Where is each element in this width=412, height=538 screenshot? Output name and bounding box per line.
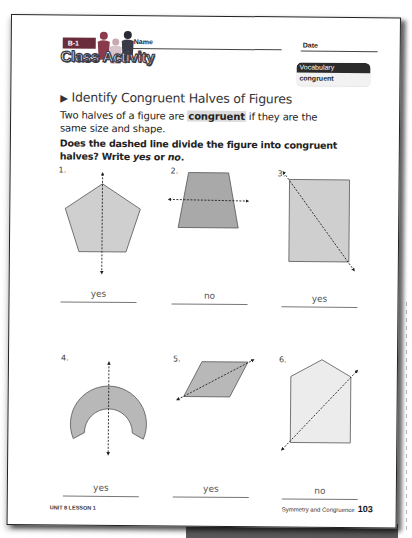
vocabulary-word: congruent (296, 72, 370, 84)
page-number: 103 (358, 504, 373, 514)
rectangle-figure (280, 167, 371, 288)
vocabulary-box: Vocabulary congruent (296, 62, 370, 86)
problem-3-answer[interactable]: yes (281, 293, 357, 304)
lesson-title-text: Identify Congruent Halves of Figures (71, 90, 292, 107)
vocab-highlight: congruent (187, 111, 246, 123)
parallelogram-figure (178, 356, 269, 417)
footer-chapter-title: Symmetry and Congruence (282, 506, 355, 513)
pentagon-figure (55, 165, 146, 286)
question-text: Does the dashed line divide the figure i… (60, 137, 337, 162)
problem-6-answer-line (282, 498, 358, 500)
class-activity-logo: Class Activity (61, 47, 155, 65)
problem-6-answer[interactable]: no (282, 485, 358, 496)
problem-1-answer-line (60, 301, 136, 303)
option-yes: yes (133, 151, 151, 162)
problem-2-answer-line (171, 303, 247, 305)
footer-chapter: Symmetry and Congruence103 (282, 503, 373, 514)
horseshoe-figure (63, 350, 154, 461)
question-mid: or (151, 151, 168, 162)
problem-1-answer[interactable]: yes (61, 288, 137, 299)
date-label: Date (303, 42, 318, 49)
problem-2-answer[interactable]: no (172, 290, 248, 301)
problem-4-answer[interactable]: yes (63, 482, 139, 493)
name-label: Name (134, 38, 153, 45)
date-field-line[interactable] (301, 51, 378, 53)
footer-unit-lesson: UNIT 8 LESSON 1 (50, 504, 96, 510)
house-pentagon-figure (280, 357, 371, 468)
problem-5-answer[interactable]: yes (173, 483, 249, 494)
problem-5-answer-line (173, 496, 249, 498)
trapezoid-figure (175, 166, 266, 237)
problem-3-answer-line (281, 306, 357, 308)
question-prompt: Does the dashed line divide the figure i… (60, 136, 350, 165)
binding-dots (405, 300, 408, 530)
vocabulary-heading: Vocabulary (297, 62, 371, 73)
lesson-title: ▶ Identify Congruent Halves of Figures (60, 89, 292, 106)
worksheet-page: B-1 Class Activity Name Date Vocabulary … (7, 14, 401, 528)
triangle-bullet-icon: ▶ (60, 92, 68, 103)
problem-4-answer-line (63, 495, 139, 497)
question-end: . (181, 151, 185, 162)
intro-text: Two halves of a figure are congruent if … (60, 108, 330, 136)
option-no: no (168, 151, 181, 162)
intro-before: Two halves of a figure are (60, 109, 187, 121)
